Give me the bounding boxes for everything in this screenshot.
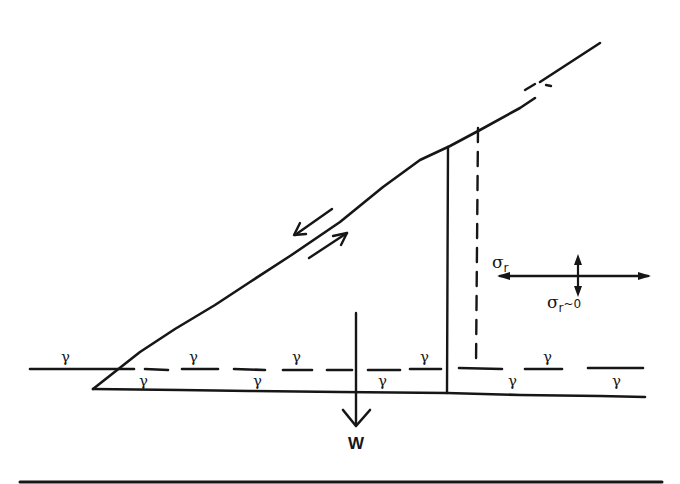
shear-sense-arrows (294, 209, 347, 258)
lower-base-line (93, 389, 645, 397)
slope-stress-diagram: γ γ γ γ γ γ γ γ γ γ W σr σr~0 (0, 0, 680, 484)
weight-label: W (348, 434, 365, 453)
gamma-label: γ (378, 372, 387, 390)
gamma-label: γ (508, 372, 517, 390)
gamma-label: γ (139, 372, 148, 390)
slope-surface-line-upper (540, 43, 600, 82)
gamma-label: γ (61, 348, 70, 366)
stress-state-arrows (497, 254, 651, 297)
slope-break-dot (546, 85, 551, 86)
gamma-label: γ (420, 348, 429, 366)
vertical-dashed-line (476, 128, 478, 367)
up-arrowhead-icon (574, 254, 582, 265)
gamma-label: γ (292, 348, 301, 366)
right-arrowhead-icon (638, 272, 651, 280)
gamma-label: γ (612, 372, 621, 390)
upper-dashed-layer-line (30, 368, 643, 370)
slope-break-dash (525, 84, 535, 90)
gamma-label: γ (253, 372, 262, 390)
vertical-solid-line (447, 147, 448, 393)
sigma-r-approx-zero-label: σr~0 (547, 292, 581, 315)
slope-surface-line (93, 98, 535, 389)
sigma-r-label: σr (492, 252, 509, 275)
down-arrowhead-icon (574, 286, 582, 297)
gamma-label: γ (189, 348, 198, 366)
gamma-label: γ (543, 348, 552, 366)
